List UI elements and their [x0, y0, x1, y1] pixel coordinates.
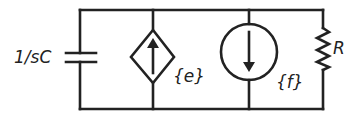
- capacitor-label: 1/sC: [14, 49, 51, 66]
- current-source-label: {f}: [276, 74, 304, 91]
- circuit-diagram: [0, 0, 361, 117]
- capacitor-symbol: [66, 10, 96, 109]
- dependent-source-label: {e}: [173, 68, 205, 85]
- current-source-symbol: [221, 10, 277, 109]
- resistor-label: R: [333, 40, 345, 57]
- arrow-down-icon: [243, 62, 255, 72]
- arrow-up-icon: [147, 38, 159, 48]
- dependent-source-symbol: [131, 10, 174, 109]
- resistor-symbol: [317, 10, 329, 109]
